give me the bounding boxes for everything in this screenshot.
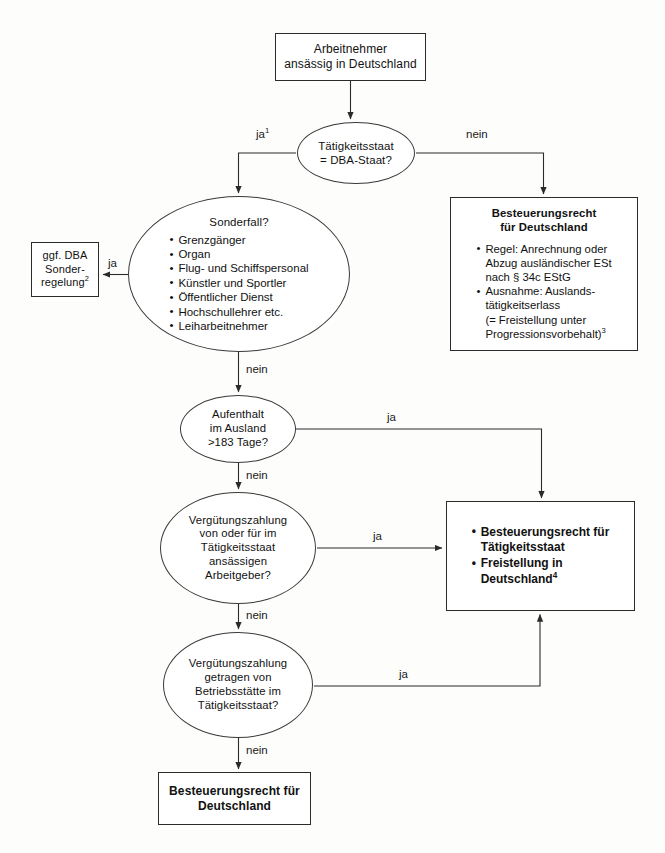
stay-abroad-line-2: im Ausland	[208, 422, 268, 436]
employee-line-2: ansässig in Deutschland	[284, 57, 416, 72]
list-item: Ausnahme: Auslands- tätigkeitserlass (= …	[476, 284, 611, 341]
edge-label-ja-dba: ja1	[256, 129, 269, 141]
stay-abroad-line-3: >183 Tage?	[208, 436, 268, 450]
pe-line-2: getragen von	[189, 671, 287, 685]
node-employer-payment-decision: Vergütungszahlung von oder für im Tätigk…	[160, 492, 316, 604]
item-line-1: Freistellung in	[481, 556, 563, 570]
footnote-marker: 1	[265, 126, 269, 135]
list-item: Künstler und Sportler	[169, 276, 308, 290]
pe-line-3: Betriebsstätte im	[189, 685, 287, 699]
edge-label-nein-days: nein	[246, 470, 268, 482]
taxing-right-germany-list: Regel: Anrechnung oder Abzug ausländisch…	[476, 242, 611, 342]
footnote-marker: 3	[602, 326, 606, 335]
list-item: Hochschullehrer etc.	[169, 305, 308, 319]
dba-state-line-2: = DBA-Staat?	[318, 153, 394, 167]
pe-line-1: Vergütungszahlung	[189, 657, 287, 671]
flowchart-canvas: Arbeitnehmer ansässig in Deutschland Tät…	[0, 0, 665, 853]
list-item: Regel: Anrechnung oder Abzug ausländisch…	[476, 242, 611, 285]
edge-label-nein-dba: nein	[466, 129, 488, 141]
edge-label-ja-employer: ja	[373, 531, 382, 543]
special-case-list: Grenzgänger Organ Flug- und Schiffsperso…	[169, 233, 308, 334]
item-line-1: Besteuerungsrecht für	[481, 525, 610, 539]
item-line-3: nach § 34c EStG	[485, 271, 570, 283]
list-item: Besteuerungsrecht für Tätigkeitsstaat	[472, 525, 610, 556]
node-employee: Arbeitnehmer ansässig in Deutschland	[275, 33, 426, 81]
node-dba-special-rule: ggf. DBA Sonder- regelung2	[31, 242, 99, 297]
employer-payment-line-1: Vergütungszahlung	[189, 514, 287, 528]
footnote-marker: 2	[85, 275, 89, 284]
employee-line-1: Arbeitnehmer	[284, 42, 416, 57]
dba-state-line-1: Tätigkeitsstaat	[318, 139, 394, 153]
employer-payment-line-5: Arbeitgeber?	[189, 569, 287, 583]
edge-label-ja-special: ja	[108, 258, 117, 270]
list-item: Flug- und Schiffspersonal	[169, 261, 308, 275]
dba-special-line-2: Sonder-	[41, 263, 89, 276]
node-stay-abroad-decision: Aufenthalt im Ausland >183 Tage?	[180, 395, 296, 463]
node-taxing-right-activity-state: Besteuerungsrecht für Tätigkeitsstaat Fr…	[446, 501, 635, 611]
item-line-2: Abzug ausländischer ESt	[485, 257, 611, 269]
taxing-right-state-list: Besteuerungsrecht für Tätigkeitsstaat Fr…	[472, 525, 610, 587]
employer-payment-line-2: von oder für im	[189, 527, 287, 541]
edge-label-nein-special: nein	[246, 364, 268, 376]
list-item: Öffentlicher Dienst	[169, 290, 308, 304]
stay-abroad-line-1: Aufenthalt	[208, 408, 268, 422]
node-special-case-decision: Sonderfall? Grenzgänger Organ Flug- und …	[128, 196, 350, 352]
taxing-right-germany-header: Besteuerungsrecht für Deutschland	[492, 207, 597, 235]
list-item: Freistellung in Deutschland4	[472, 556, 610, 587]
final-germany-line-1: Besteuerungsrecht für	[169, 784, 300, 799]
list-item: Leiharbeitnehmer	[169, 319, 308, 333]
dba-special-line-3: regelung2	[41, 276, 89, 289]
edge-label-ja-days: ja	[387, 412, 396, 424]
item-line-1: Regel: Anrechnung oder	[485, 243, 607, 255]
node-dba-state-decision: Tätigkeitsstaat = DBA-Staat?	[297, 122, 415, 184]
list-item: Grenzgänger	[169, 233, 308, 247]
dba-special-line-1: ggf. DBA	[41, 249, 89, 262]
node-permanent-establishment-decision: Vergütungszahlung getragen von Betriebss…	[163, 632, 313, 738]
header-line-2: für Deutschland	[492, 221, 597, 235]
edge-label-nein-pe: nein	[246, 745, 268, 757]
employer-payment-line-4: ansässigen	[189, 555, 287, 569]
special-case-header: Sonderfall?	[209, 215, 268, 229]
edge-label-nein-employer: nein	[246, 610, 268, 622]
item-line-2: Deutschland	[481, 572, 553, 586]
edge-label-ja-pe: ja	[399, 669, 408, 681]
item-line-1: Ausnahme: Auslands-	[485, 285, 595, 297]
pe-line-4: Tätigkeitsstaat?	[189, 699, 287, 713]
node-final-taxing-right-germany: Besteuerungsrecht für Deutschland	[158, 772, 311, 825]
item-line-3: (= Freistellung unter	[485, 314, 586, 326]
employer-payment-line-3: Tätigkeitsstaat	[189, 541, 287, 555]
node-taxing-right-germany: Besteuerungsrecht für Deutschland Regel:…	[450, 197, 638, 351]
item-line-4: Progressionsvorbehalt)	[485, 328, 601, 340]
footnote-marker: 4	[553, 571, 558, 580]
list-item: Organ	[169, 247, 308, 261]
final-germany-line-2: Deutschland	[169, 799, 300, 814]
item-line-2: tätigkeitserlass	[485, 299, 560, 311]
item-line-2: Tätigkeitsstaat	[481, 540, 565, 554]
header-line-1: Besteuerungsrecht	[492, 207, 597, 221]
